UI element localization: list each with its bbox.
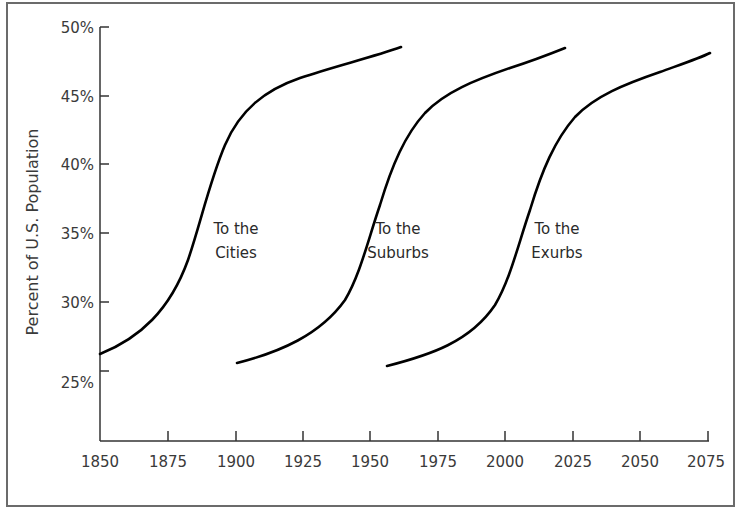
annotation-suburbs: To the Suburbs	[367, 220, 429, 262]
chart-svg: 50% 45% 40% 35% 30% 25% 1850 1875 1900 1…	[0, 0, 738, 512]
svg-text:To the: To the	[212, 220, 258, 238]
x-tick-1850: 1850	[81, 453, 119, 471]
y-tick-50: 50%	[61, 19, 94, 37]
annotation-cities: To the Cities	[212, 220, 258, 262]
y-tick-45: 45%	[61, 88, 94, 106]
y-axis-title: Percent of U.S. Population	[23, 129, 42, 336]
curve-to-the-exurbs	[387, 53, 710, 366]
svg-text:To the: To the	[533, 220, 579, 238]
x-axis	[100, 431, 709, 441]
svg-text:To the: To the	[374, 220, 420, 238]
y-tick-40: 40%	[61, 156, 94, 174]
y-tick-35: 35%	[61, 225, 94, 243]
x-tick-2025: 2025	[554, 453, 592, 471]
x-tick-2075: 2075	[687, 453, 725, 471]
y-axis	[100, 27, 109, 441]
x-tick-1875: 1875	[149, 453, 187, 471]
annotation-exurbs: To the Exurbs	[531, 220, 583, 262]
x-tick-1975: 1975	[419, 453, 457, 471]
svg-text:Exurbs: Exurbs	[531, 244, 583, 262]
x-tick-labels: 1850 1875 1900 1925 1950 1975 2000 2025 …	[81, 453, 725, 471]
y-tick-labels: 50% 45% 40% 35% 30% 25%	[61, 19, 94, 392]
x-tick-1925: 1925	[284, 453, 322, 471]
x-tick-1900: 1900	[217, 453, 255, 471]
x-tick-2050: 2050	[621, 453, 659, 471]
y-tick-25: 25%	[61, 374, 94, 392]
svg-text:Cities: Cities	[215, 244, 257, 262]
x-tick-1950: 1950	[351, 453, 389, 471]
y-tick-30: 30%	[61, 294, 94, 312]
curve-to-the-cities	[100, 47, 401, 354]
svg-text:Suburbs: Suburbs	[367, 244, 429, 262]
x-tick-2000: 2000	[486, 453, 524, 471]
curve-to-the-suburbs	[237, 48, 565, 363]
